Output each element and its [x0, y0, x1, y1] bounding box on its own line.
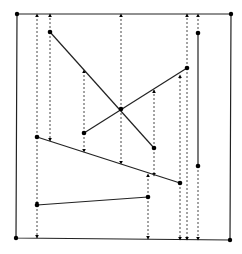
endpoint [146, 195, 151, 200]
corner-point [229, 12, 233, 16]
endpoint [152, 146, 157, 151]
corner-point [15, 12, 19, 16]
segment-s4 [37, 137, 180, 183]
endpoint [82, 131, 87, 136]
endpoint [48, 30, 53, 35]
line-segments [37, 32, 198, 205]
endpoint [196, 164, 201, 169]
corner-point [14, 236, 18, 240]
segment-s2 [84, 68, 187, 133]
endpoint [35, 135, 40, 140]
segment-s1 [50, 32, 154, 148]
bounding-box [16, 14, 231, 240]
segment-s5 [37, 197, 148, 205]
intersection-point [119, 107, 124, 112]
vertical-extensions [37, 14, 198, 240]
corner-point [228, 238, 232, 242]
endpoint [196, 31, 201, 36]
boundary-box [16, 14, 231, 240]
endpoint [185, 66, 190, 71]
endpoint [178, 181, 183, 186]
trapezoidal-decomposition-diagram [0, 0, 242, 254]
endpoints [14, 12, 233, 242]
endpoint [35, 203, 40, 208]
